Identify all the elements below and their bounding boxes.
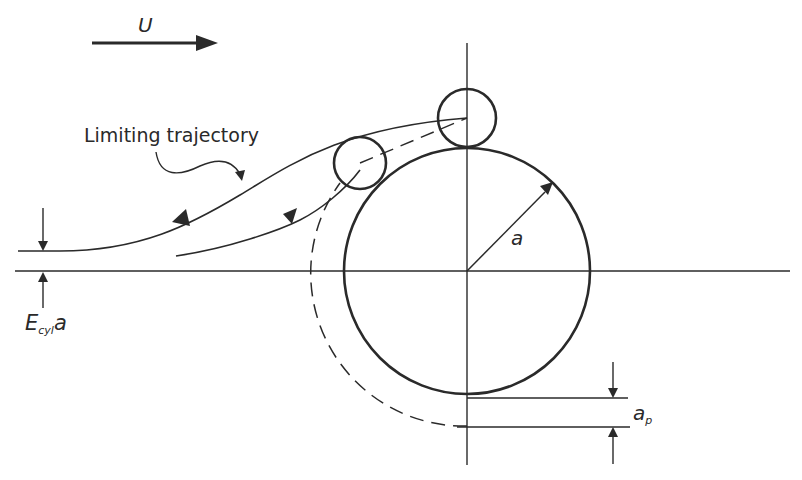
- callout-arrowhead-icon: [235, 170, 245, 181]
- radius-label: a: [511, 226, 523, 250]
- radius-line: [467, 192, 545, 271]
- callout-curve: [156, 152, 240, 174]
- offset-arrowhead-down-icon: [38, 241, 48, 251]
- particle-trajectory: [176, 170, 360, 256]
- limiting-trajectory-label: Limiting trajectory: [84, 124, 259, 146]
- ap-arrowhead-down-icon: [608, 388, 618, 398]
- dashed-capture-circle: [311, 183, 467, 426]
- offset-label: Ecyla: [25, 311, 67, 337]
- offset-arrowhead-up-icon: [38, 272, 48, 282]
- flow-arrow: [92, 35, 218, 51]
- trajectory-arrow-icon: [172, 209, 190, 226]
- radius-arrowhead-icon: [540, 182, 553, 195]
- particle-capture-diagram: U a Limiting trajectory Ecyla ap: [0, 0, 802, 480]
- arrowhead-icon: [196, 35, 218, 51]
- particle-radius-label: ap: [633, 401, 652, 427]
- ap-arrowhead-up-icon: [608, 427, 618, 437]
- flow-velocity-label: U: [138, 13, 153, 37]
